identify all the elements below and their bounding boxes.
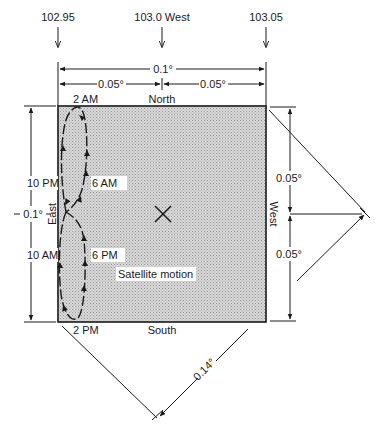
diagonal-end-tick xyxy=(360,208,370,218)
side-label-west: West xyxy=(268,202,280,227)
time-label-10am: 10 AM xyxy=(27,249,58,261)
dimension-label-right-upper: 0.05° xyxy=(276,172,302,184)
time-label-6pm: 6 PM xyxy=(92,249,118,261)
dimension-top-left-half: 0.05° xyxy=(60,78,160,90)
dimension-top-right-half: 0.05° xyxy=(164,78,264,90)
diagonal-arrow-lower xyxy=(160,378,198,416)
longitude-marker-center: 103.0 West xyxy=(134,11,189,47)
dimension-top-total: 0.1° xyxy=(60,63,264,75)
satellite-motion-label: Satellite motion xyxy=(118,268,193,280)
side-label-south: South xyxy=(148,324,177,336)
longitude-label-102-95: 102.95 xyxy=(41,11,75,23)
time-label-10pm: 10 PM xyxy=(27,177,59,189)
time-label-2am: 2 AM xyxy=(73,93,98,105)
longitude-marker-west-edge: 102.95 xyxy=(41,11,75,47)
dimension-label-right-lower: 0.05° xyxy=(276,248,302,260)
dimension-right-halves: 0.05° 0.05° xyxy=(270,107,362,321)
longitude-marker-east-edge: 103.05 xyxy=(249,11,283,47)
side-label-north: North xyxy=(149,93,176,105)
longitude-label-103-0: 103.0 West xyxy=(134,11,189,23)
diagonal-line-lower-left xyxy=(62,326,157,418)
station-keeping-diagram: 102.95 103.0 West 103.05 0.1° 0.05° 0.05… xyxy=(0,0,382,441)
dimension-diagonal: 0.14° xyxy=(62,326,248,420)
diagonal-arrow-right xyxy=(297,215,364,281)
dimension-label-left-total: 0.1° xyxy=(23,208,43,220)
longitude-label-103-05: 103.05 xyxy=(249,11,283,23)
time-label-6am: 6 AM xyxy=(92,177,117,189)
side-label-east: East xyxy=(46,203,58,225)
time-label-2pm: 2 PM xyxy=(73,324,99,336)
dimension-label-top-left: 0.05° xyxy=(98,78,124,90)
diagonal-arrow-upper-segment xyxy=(216,329,248,361)
dimension-label-diagonal: 0.14° xyxy=(191,356,218,383)
diagonal-line-upper-right xyxy=(269,110,365,212)
dimension-label-top-right: 0.05° xyxy=(200,78,226,90)
dimension-label-top-total: 0.1° xyxy=(153,63,173,75)
